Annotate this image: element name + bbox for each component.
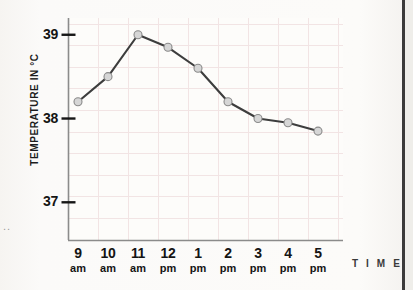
scan-gutter-soft-edge [405,0,413,290]
x-tick-label-4pm: 4pm [271,246,305,275]
x-tick-hour: 10 [91,246,125,261]
x-tick-meridiem: pm [241,261,275,275]
temperature-line-chart: 393837 9am10am11am12pm1pm2pm3pm4pm5pm TE… [0,0,413,290]
x-tick-hour: 9 [61,246,95,261]
x-tick-meridiem: pm [211,261,245,275]
x-tick-label-1pm: 1pm [181,246,215,275]
x-tick-meridiem: am [61,261,95,275]
x-tick-label-10am: 10am [91,246,125,275]
x-tick-hour: 3 [241,246,275,261]
x-tick-meridiem: am [121,261,155,275]
x-tick-meridiem: pm [301,261,335,275]
x-tick-hour: 4 [271,246,305,261]
x-tick-label-9am: 9am [61,246,95,275]
x-axis-tick-labels: 9am10am11am12pm1pm2pm3pm4pm5pm [0,0,413,290]
x-tick-hour: 5 [301,246,335,261]
x-tick-meridiem: pm [151,261,185,275]
x-tick-meridiem: pm [271,261,305,275]
x-tick-label-12pm: 12pm [151,246,185,275]
x-tick-label-11am: 11am [121,246,155,275]
x-tick-hour: 11 [121,246,155,261]
x-tick-label-5pm: 5pm [301,246,335,275]
x-tick-hour: 2 [211,246,245,261]
x-tick-label-3pm: 3pm [241,246,275,275]
x-tick-meridiem: pm [181,261,215,275]
scan-gutter-dark-line [402,0,405,290]
x-tick-hour: 1 [181,246,215,261]
x-tick-label-2pm: 2pm [211,246,245,275]
x-tick-hour: 12 [151,246,185,261]
x-axis-title: T I M E [352,258,402,269]
x-tick-meridiem: am [91,261,125,275]
y-axis-title: TEMPERATURE IN °C [29,10,40,210]
